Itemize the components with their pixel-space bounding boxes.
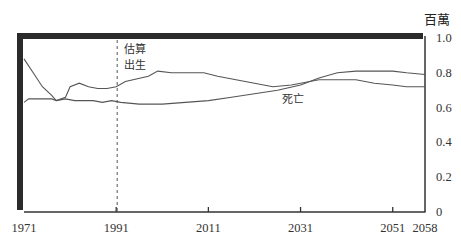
x-tick-label: 2058 (413, 221, 438, 235)
estimate-label: 估算 (124, 42, 146, 56)
deaths-label: 死亡 (282, 92, 304, 106)
frame-left-band (17, 33, 23, 210)
deaths-line (24, 71, 425, 104)
y-tick-label: 0.8 (436, 66, 452, 80)
births-label: 出生 (124, 58, 146, 72)
line-chart: 197119912011203120512058 00.20.40.60.81.… (0, 0, 461, 248)
y-tick-label: 0.4 (436, 135, 452, 149)
y-tick-label: 1.0 (436, 31, 452, 45)
births-line (24, 59, 425, 101)
x-tick-label: 1971 (12, 221, 37, 235)
x-tick-label: 2011 (196, 221, 221, 235)
y-tick-label: 0 (436, 205, 442, 219)
y-tick-label: 0.6 (436, 101, 452, 115)
x-axis-ticks: 197119912011203120512058 (12, 207, 438, 235)
x-tick-label: 2051 (380, 221, 405, 235)
frame-top-band (17, 33, 423, 39)
y-axis-ticks: 00.20.40.60.81.0 (436, 31, 452, 219)
x-tick-label: 2031 (288, 221, 313, 235)
x-tick-label: 1991 (104, 221, 129, 235)
y-unit-label: 百萬 (424, 12, 450, 27)
y-tick-label: 0.2 (436, 170, 452, 184)
